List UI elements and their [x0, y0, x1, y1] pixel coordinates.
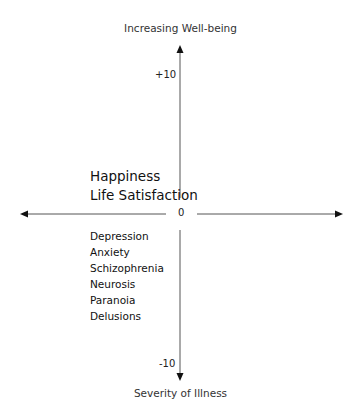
y-axis-bottom-label: Severity of Illness — [0, 387, 361, 399]
negative-item: Neurosis — [90, 276, 135, 292]
down-arrow-icon — [177, 373, 184, 381]
right-arrow-icon — [335, 211, 343, 218]
up-arrow-icon — [177, 45, 184, 53]
y-axis-top-label: Increasing Well-being — [0, 22, 361, 34]
max-tick-label: +10 — [155, 69, 176, 80]
positive-item: Happiness — [90, 166, 160, 186]
min-tick-label: -10 — [159, 358, 175, 369]
negative-item: Anxiety — [90, 244, 130, 260]
positive-item: Life Satisfaction — [90, 185, 198, 205]
negative-item: Schizophrenia — [90, 260, 164, 276]
left-arrow-icon — [20, 211, 28, 218]
negative-item: Depression — [90, 228, 149, 244]
origin-label: 0 — [178, 207, 184, 218]
negative-item: Paranoia — [90, 292, 135, 308]
negative-item: Delusions — [90, 308, 141, 324]
